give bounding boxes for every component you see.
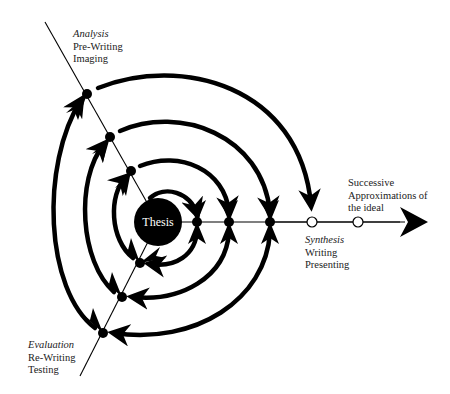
node [126,166,136,176]
arrowhead-icon [66,94,87,120]
synthesis-title: Synthesis [305,234,349,247]
node [135,258,145,268]
synthesis-line-1: Writing [305,247,349,260]
arc-left-3 [54,100,95,328]
analysis-line-1: Pre-Writing [73,41,123,54]
synthesis-label: Synthesis Writing Presenting [305,234,349,272]
node [105,132,115,142]
node [224,217,234,227]
node [82,89,92,99]
arc-left-2 [85,144,114,292]
arc-top-3 [98,75,311,205]
evaluation-line-2: Testing [28,364,75,377]
node [117,292,127,302]
outcome-line-3: the ideal [348,202,428,215]
outcome-line-1: Successive [348,177,428,190]
thesis-node: Thesis [134,198,182,246]
evaluation-label: Evaluation Re-Writing Testing [28,339,75,377]
outcome-label: Successive Approximations of the ideal [348,177,428,215]
open-node-synthesis [307,217,317,227]
node [192,217,202,227]
synthesis-line-2: Presenting [305,259,349,272]
node [98,328,108,338]
analysis-line-2: Imaging [73,53,123,66]
thesis-label: Thesis [142,215,174,229]
open-node-approximation [353,217,363,227]
analysis-title: Analysis [73,28,123,41]
analysis-label: Analysis Pre-Writing Imaging [73,28,123,66]
evaluation-title: Evaluation [28,339,75,352]
outcome-line-2: Approximations of [348,190,428,203]
evaluation-line-1: Re-Writing [28,352,75,365]
